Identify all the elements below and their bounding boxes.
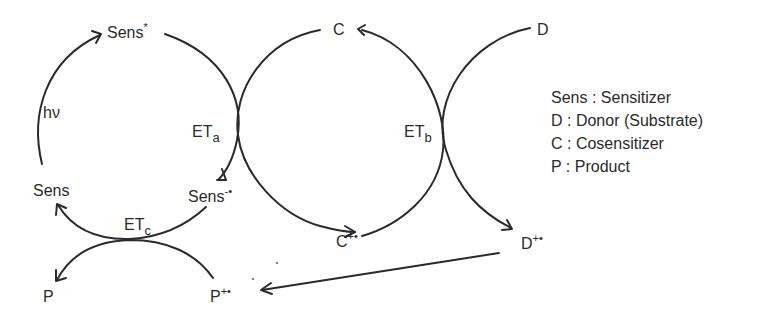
- label-et-c-base: ET: [124, 216, 144, 233]
- legend-item-cosensitizer: C : Cosensitizer: [551, 132, 703, 155]
- label-d-base: D: [537, 21, 549, 38]
- label-c-base: C: [333, 21, 345, 38]
- label-et-b-base: ET: [404, 123, 424, 140]
- legend-key: Sens: [551, 89, 587, 106]
- label-d-cation-base: D: [521, 235, 533, 252]
- label-hv-text: hν: [43, 104, 60, 121]
- label-c: C: [333, 22, 345, 38]
- legend-item-donor: D : Donor (Substrate): [551, 109, 703, 132]
- arc-cosensitizer-left: [237, 30, 355, 232]
- label-et-a: ETa: [192, 124, 220, 141]
- label-sens-star-sup: *: [143, 21, 147, 33]
- legend-sep: :: [563, 112, 576, 129]
- label-d-cation: D+•: [521, 236, 543, 253]
- arrow-donor-to-product: [262, 253, 499, 290]
- label-p: P: [43, 289, 54, 305]
- legend-value: Cosensitizer: [576, 135, 664, 152]
- label-et-c-sub: c: [144, 223, 151, 238]
- legend-value: Product: [575, 158, 630, 175]
- label-et-a-sub: a: [212, 130, 219, 145]
- label-sens-anion-sup: -•: [224, 185, 232, 197]
- label-sens-anion: Sens-•: [188, 189, 232, 206]
- label-sens-anion-base: Sens: [188, 188, 224, 205]
- label-sens-star: Sens*: [107, 25, 148, 42]
- label-d-cation-sup: +•: [533, 232, 543, 244]
- label-et-a-base: ET: [192, 123, 212, 140]
- arc-excitation: [38, 35, 100, 164]
- legend-key: D: [551, 112, 563, 129]
- arc-et-c-lower: [57, 240, 213, 280]
- arc-donor: [442, 28, 530, 228]
- legend-key: P: [551, 158, 561, 175]
- label-sens-star-base: Sens: [107, 24, 143, 41]
- label-sens: Sens: [33, 183, 69, 199]
- arc-et-a-sens: [165, 34, 239, 180]
- label-p-cation-base: P: [210, 288, 221, 305]
- label-et-b: ETb: [404, 124, 432, 141]
- legend-value: Sensitizer: [601, 89, 671, 106]
- legend-sep: :: [563, 135, 576, 152]
- legend-value: Donor (Substrate): [576, 112, 703, 129]
- label-c-cation-sup: +•: [348, 230, 358, 242]
- label-p-base: P: [43, 288, 54, 305]
- legend-sep: :: [561, 158, 574, 175]
- legend-sep: :: [587, 89, 600, 106]
- label-d: D: [537, 22, 549, 38]
- legend-key: C: [551, 135, 563, 152]
- legend: Sens : Sensitizer D : Donor (Substrate) …: [551, 86, 703, 178]
- speck: [252, 278, 254, 280]
- label-c-cation-base: C: [336, 233, 348, 250]
- legend-item-sens: Sens : Sensitizer: [551, 86, 703, 109]
- speck: [276, 262, 278, 264]
- label-p-cation: P+•: [210, 289, 231, 306]
- label-et-b-sub: b: [424, 130, 431, 145]
- label-c-cation: C+•: [336, 234, 358, 251]
- label-p-cation-sup: +•: [221, 285, 231, 297]
- label-hv: hν: [43, 105, 60, 121]
- label-et-c: ETc: [124, 217, 151, 234]
- legend-item-product: P : Product: [551, 155, 703, 178]
- label-sens-base: Sens: [33, 182, 69, 199]
